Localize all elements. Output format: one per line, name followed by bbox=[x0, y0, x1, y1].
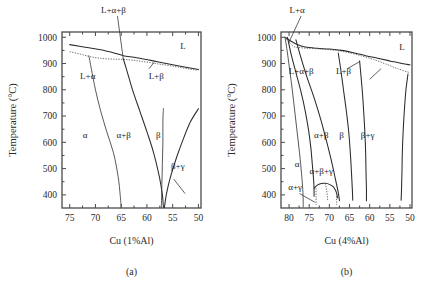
region-label: α+β+γ bbox=[310, 166, 333, 176]
x-tick-label: 75 bbox=[304, 213, 314, 223]
x-tick-label: 60 bbox=[142, 213, 152, 223]
curve-eutectoid-arc bbox=[314, 183, 337, 198]
x-tick-label: 70 bbox=[91, 213, 101, 223]
region-label: α bbox=[83, 130, 88, 140]
region-label: β+γ bbox=[171, 161, 185, 171]
y-tick-label: 1000 bbox=[257, 33, 276, 43]
phase-diagram-panel-b: 807570656055501000900800700600500400LL+α… bbox=[213, 0, 427, 293]
y-tick-label: 700 bbox=[262, 111, 277, 121]
region-label: L+β bbox=[336, 66, 352, 76]
region-label: β bbox=[339, 130, 344, 140]
annotation-label: L+α bbox=[289, 5, 305, 15]
x-tick-label: 80 bbox=[284, 213, 294, 223]
alpha-gamma-leader-line bbox=[300, 194, 315, 203]
x-axis-title: Cu (4%Al) bbox=[324, 235, 368, 247]
y-tick-label: 500 bbox=[43, 164, 58, 174]
annotation-leader-line bbox=[288, 16, 301, 44]
l-beta-leader-line bbox=[149, 62, 154, 69]
y-tick-label: 600 bbox=[262, 138, 277, 148]
x-axis-title: Cu (1%Al) bbox=[109, 235, 153, 247]
y-tick-label: 800 bbox=[43, 85, 58, 95]
x-tick-label: 55 bbox=[168, 213, 178, 223]
y-tick-label: 400 bbox=[43, 190, 58, 200]
phase-diagram-panel-a: 7570656055501000900800700600500400LL+αL+… bbox=[0, 0, 214, 293]
y-tick-label: 900 bbox=[262, 59, 277, 69]
y-axis-title: Temperature (°C) bbox=[7, 83, 19, 157]
y-axis-title: Temperature (°C) bbox=[226, 83, 238, 157]
beta-gamma-leader-line bbox=[174, 179, 185, 193]
region-label: L+β bbox=[149, 71, 165, 81]
region-label: L+α+β bbox=[289, 66, 314, 76]
region-label: α+β bbox=[117, 130, 132, 140]
phase-boundary-curves bbox=[285, 37, 410, 207]
region-label: α bbox=[295, 159, 300, 169]
x-tick-label: 50 bbox=[194, 213, 204, 223]
y-tick-label: 700 bbox=[43, 111, 58, 121]
region-labels: LL+α+βL+βαα+βββ+γα+β+γα+γ bbox=[288, 42, 404, 191]
region-label: β bbox=[156, 130, 161, 140]
curve-alpha-gamma-dotted-3 bbox=[325, 183, 327, 201]
x-axis: 80757065605550 bbox=[284, 32, 415, 223]
x-tick-label: 70 bbox=[325, 213, 335, 223]
beta-gamma-leader-line bbox=[370, 69, 381, 80]
region-labels: LL+αL+βαα+βββ+γ bbox=[80, 41, 186, 171]
y-tick-label: 600 bbox=[43, 138, 58, 148]
phase-boundary-curves bbox=[70, 45, 199, 208]
x-tick-label: 60 bbox=[365, 213, 375, 223]
y-tick-label: 900 bbox=[43, 59, 58, 69]
curve-alpha-beta-boundary bbox=[296, 40, 340, 201]
panel-caption: (b) bbox=[341, 266, 353, 278]
curve-gamma-right bbox=[401, 74, 408, 200]
y-tick-label: 800 bbox=[262, 85, 277, 95]
curve-liquidus bbox=[285, 37, 410, 65]
x-tick-label: 65 bbox=[116, 213, 126, 223]
region-label: β+γ bbox=[361, 130, 375, 140]
x-tick-label: 50 bbox=[405, 213, 415, 223]
y-tick-label: 400 bbox=[262, 190, 277, 200]
region-label: L+α bbox=[80, 71, 96, 81]
chart-svg-panel-a: 7570656055501000900800700600500400LL+αL+… bbox=[0, 0, 214, 293]
region-label: α+β bbox=[314, 130, 329, 140]
annotation-leader-line bbox=[117, 16, 123, 59]
chart-svg-panel-b: 807570656055501000900800700600500400LL+α… bbox=[213, 0, 427, 293]
y-tick-label: 1000 bbox=[38, 33, 57, 43]
y-tick-label: 500 bbox=[262, 164, 277, 174]
region-label: L bbox=[399, 42, 405, 52]
x-tick-label: 75 bbox=[65, 213, 75, 223]
figure-container: 7570656055501000900800700600500400LL+αL+… bbox=[0, 0, 427, 293]
annotations: L+α bbox=[288, 5, 305, 44]
region-label: α+γ bbox=[288, 182, 302, 192]
curve-solidus-dotted bbox=[70, 52, 199, 71]
panel-caption: (a) bbox=[126, 266, 137, 278]
plot-frame bbox=[62, 32, 201, 208]
x-tick-label: 55 bbox=[385, 213, 395, 223]
x-tick-label: 65 bbox=[345, 213, 355, 223]
region-label: L bbox=[180, 41, 186, 51]
annotation-label: L+α+β bbox=[101, 5, 126, 15]
curve-gamma-boundary-right bbox=[164, 109, 198, 208]
